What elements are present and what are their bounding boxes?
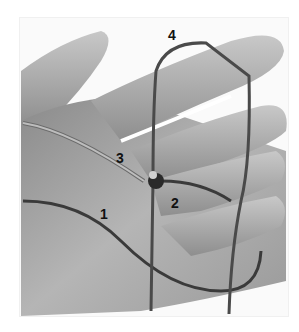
hand-cord-photo: 4 3 2 1 bbox=[19, 17, 289, 317]
label-4: 4 bbox=[168, 28, 176, 42]
label-3: 3 bbox=[116, 151, 124, 165]
label-2: 2 bbox=[171, 196, 179, 210]
label-1: 1 bbox=[100, 207, 108, 221]
hand-illustration bbox=[20, 18, 288, 316]
